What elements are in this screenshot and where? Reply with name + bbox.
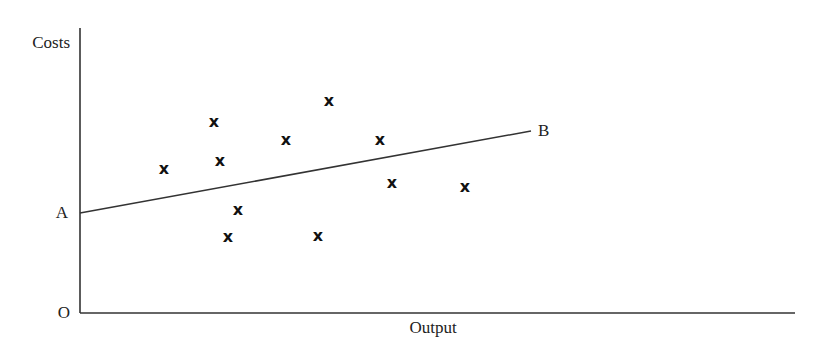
data-point-marker: x (281, 130, 292, 149)
point-a-label: A (56, 203, 69, 222)
data-point-marker: x (387, 173, 398, 192)
line-a-b (80, 131, 531, 213)
y-axis-label: Costs (32, 33, 70, 52)
data-point-marker: x (313, 226, 324, 245)
data-point-marker: x (324, 91, 335, 110)
data-point-marker: x (215, 151, 226, 170)
origin-label: O (58, 303, 70, 322)
point-b-label: B (538, 121, 549, 140)
data-point-marker: x (209, 112, 220, 131)
data-point-marker: x (375, 130, 386, 149)
data-point-marker: x (460, 177, 471, 196)
data-point-marker: x (223, 227, 234, 246)
scatter-points: xxxxxxxxxxx (159, 91, 471, 246)
x-axis-label: Output (409, 318, 457, 337)
cost-output-diagram: Costs Output O A B xxxxxxxxxxx (0, 0, 825, 358)
data-point-marker: x (233, 200, 244, 219)
data-point-marker: x (159, 159, 170, 178)
